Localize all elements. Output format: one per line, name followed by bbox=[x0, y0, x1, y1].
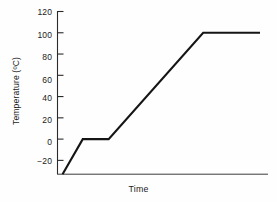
y-tick-label--20: −20 bbox=[21, 156, 52, 166]
y-tick-label-20: 20 bbox=[24, 115, 52, 125]
chart-figure: 120 100 80 60 40 20 0 −20 Temperature (º… bbox=[0, 0, 277, 202]
x-axis-label: Time bbox=[0, 184, 277, 194]
y-tick-label-80: 80 bbox=[24, 52, 52, 62]
y-tick-label-60: 60 bbox=[24, 75, 52, 85]
y-axis-ticks bbox=[58, 12, 64, 161]
y-tick-label-40: 40 bbox=[24, 93, 52, 103]
y-tick-label-120: 120 bbox=[24, 7, 52, 17]
y-tick-label-0: 0 bbox=[24, 137, 52, 147]
data-series-heating-curve bbox=[63, 33, 260, 174]
y-tick-label-100: 100 bbox=[24, 30, 52, 40]
y-axis-label: Temperature (ºC) bbox=[11, 31, 21, 151]
